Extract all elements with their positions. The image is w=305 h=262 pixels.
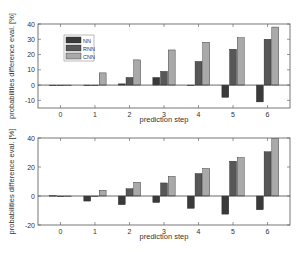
bar-cnn [272,27,279,85]
bar-cnn [203,168,210,196]
bar-rnn [195,174,202,196]
x-axis-label: prediction step [140,115,189,124]
bar-nn [153,196,160,203]
chart-panel-2: -20020400123456prediction stepprobabilit… [7,129,290,241]
bar-nn [153,77,160,85]
bar-rnn [161,183,168,196]
y-tick-label: 0 [31,193,35,200]
bar-nn [222,85,229,97]
legend-swatch-rnn [66,45,81,51]
legend: NNRNNCNN [64,35,95,61]
x-tick-label: 4 [197,111,201,118]
legend-label: RNN [83,46,95,52]
bar-rnn [230,49,237,85]
x-tick-label: 6 [266,111,270,118]
figure: -100102030400123456prediction stepprobab… [0,0,305,262]
bar-cnn [237,38,244,85]
x-tick-label: 5 [231,111,235,118]
chart-panel-1: -100102030400123456prediction stepprobab… [7,13,290,124]
y-axis-label: probabilities difference eval. [%] [7,13,16,119]
y-tick-label: -10 [25,97,35,104]
x-tick-label: 4 [197,228,201,235]
bar-cnn [203,42,210,85]
bar-cnn [168,176,175,196]
x-tick-label: 0 [58,228,62,235]
bar-cnn [134,182,141,196]
bar-nn [222,196,229,214]
bar-nn [84,196,91,201]
y-tick-label: 30 [27,36,35,43]
bar-rnn [195,61,202,85]
bar-cnn [168,50,175,85]
bar-rnn [264,39,271,85]
y-tick-label: 40 [27,21,35,28]
plot-area [38,138,290,225]
bar-cnn [134,60,141,85]
bar-nn [256,196,263,210]
bar-cnn [272,139,279,196]
bar-cnn [99,190,106,196]
x-tick-label: 5 [231,228,235,235]
legend-swatch-nn [66,37,81,43]
x-axis-label: prediction step [140,232,189,241]
bar-rnn [126,189,133,196]
y-tick-label: 20 [27,164,35,171]
x-tick-label: 6 [266,228,270,235]
bar-rnn [161,71,168,85]
bar-nn [187,196,194,208]
bar-rnn [230,161,237,196]
x-tick-label: 1 [93,111,97,118]
y-tick-label: 0 [31,82,35,89]
legend-label: NN [83,38,91,44]
bar-cnn [237,158,244,196]
y-axis-label: probabilities difference eval. [%] [7,129,16,235]
x-tick-label: 2 [128,111,132,118]
legend-swatch-cnn [66,53,81,59]
x-tick-label: 2 [128,228,132,235]
x-tick-label: 1 [93,228,97,235]
x-tick-label: 0 [58,111,62,118]
bar-rnn [264,152,271,196]
legend-label: CNN [83,54,95,60]
bar-cnn [99,73,106,85]
y-tick-label: 40 [27,135,35,142]
bar-rnn [126,77,133,85]
y-tick-label: 10 [27,66,35,73]
y-tick-label: 20 [27,51,35,58]
y-tick-label: -20 [25,222,35,229]
bar-nn [256,85,263,102]
bar-nn [118,196,125,205]
